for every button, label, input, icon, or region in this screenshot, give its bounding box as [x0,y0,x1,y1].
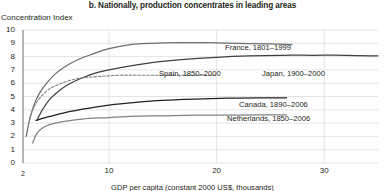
y-tick-label: 1 [3,145,15,154]
plot-canvas [0,0,385,191]
y-tick-label: 10 [3,25,15,34]
y-tick-label: 4 [3,105,15,114]
x-tick-label: 2 [13,169,33,178]
series-label-4: Netherlands, 1850–2006 [227,114,310,123]
y-tick-label: 9 [3,38,15,47]
series-lines [26,43,378,144]
series-label-3: Canada, 1890–2006 [239,100,308,109]
y-tick-label: 0 [3,158,15,167]
y-tick-label: 7 [3,65,15,74]
series-label-1: Japan, 1900–2000 [262,69,325,78]
y-tick-label: 5 [3,92,15,101]
y-tick-label: 2 [3,131,15,140]
grid-lines [23,30,378,163]
series-line-1 [37,55,378,120]
y-tick-label: 6 [3,78,15,87]
series-line-2 [29,75,216,119]
x-tick-label: 20 [207,166,227,175]
series-label-2: Spain, 1850–2000 [159,69,221,78]
x-tick-label: 10 [99,166,119,175]
plot-area: 012345678910 2102030 France, 1801–1999Ja… [0,0,385,191]
x-axis-title: GDP per capita (constant 2000 US$, thous… [0,183,385,191]
y-tick-label: 8 [3,52,15,61]
y-tick-label: 3 [3,118,15,127]
series-label-0: France, 1801–1999 [225,43,291,52]
concentration-index-chart: b. Nationally, production concentrates i… [0,0,385,191]
x-tick-label: 30 [314,166,334,175]
